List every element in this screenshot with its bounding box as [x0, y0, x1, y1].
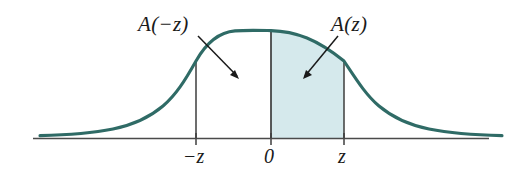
shaded-area-region: [271, 31, 344, 138]
distribution-diagram: [0, 0, 508, 176]
axis-tick-label-neg-z: −z: [183, 146, 204, 166]
area-label-right: A(z): [331, 14, 367, 35]
area-label-left: A(−z): [138, 14, 189, 35]
annotation-arrow-left: [198, 36, 239, 79]
normal-distribution-figure: A(−z) A(z) −z 0 z: [0, 0, 508, 176]
axis-tick-label-zero: 0: [264, 146, 274, 166]
axis-tick-label-z: z: [338, 146, 346, 166]
